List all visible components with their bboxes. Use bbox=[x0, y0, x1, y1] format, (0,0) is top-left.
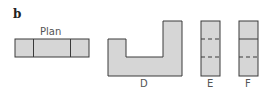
plan-shape bbox=[15, 39, 89, 57]
panel-label: b bbox=[13, 7, 21, 21]
view-f-shape bbox=[239, 21, 258, 76]
view-d-shape bbox=[108, 21, 182, 76]
plan-label: Plan bbox=[40, 26, 61, 37]
diagram: b Plan D E F bbox=[0, 0, 273, 94]
view-f-label: F bbox=[245, 78, 251, 89]
view-e-label: E bbox=[207, 78, 213, 89]
view-d-label: D bbox=[140, 78, 148, 89]
view-e-shape bbox=[201, 21, 220, 76]
